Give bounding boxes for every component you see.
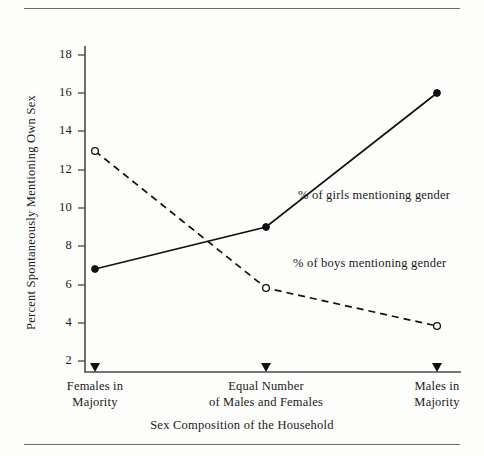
- y-tick-marks: [78, 55, 85, 361]
- series-girls: [92, 90, 441, 273]
- y-tick-label-12: 12: [46, 162, 72, 177]
- y-tick-label-4: 4: [46, 315, 72, 330]
- axis-lines: [85, 46, 461, 372]
- x-category-label-equal-number: Equal Number of Males and Females: [186, 378, 346, 410]
- figure: 18 16 14 12 10 8 6 4 2 Percent Spontaneo…: [0, 0, 484, 456]
- x-category-label-line2: of Males and Females: [186, 394, 346, 410]
- x-category-label-females-majority: Females in Majority: [35, 378, 155, 410]
- y-tick-label-6: 6: [46, 277, 72, 292]
- series-annotation-girls: % of girls mentioning gender: [298, 188, 450, 203]
- x-category-label-line1: Equal Number: [186, 378, 346, 394]
- y-tick-label-8: 8: [46, 238, 72, 253]
- category-markers: [90, 363, 442, 372]
- x-category-label-line2: Majority: [385, 394, 484, 410]
- x-category-label-line1: Males in: [385, 378, 484, 394]
- y-tick-label-2: 2: [46, 353, 72, 368]
- y-tick-label-14: 14: [46, 123, 72, 138]
- y-tick-label-10: 10: [46, 200, 72, 215]
- x-category-label-line2: Majority: [35, 394, 155, 410]
- y-axis-title: Percent Spontaneously Mentioning Own Sex: [24, 78, 39, 348]
- y-tick-label-18: 18: [46, 47, 72, 62]
- series-boys: [92, 148, 441, 330]
- x-axis-title: Sex Composition of the Household: [0, 418, 484, 433]
- x-category-label-males-majority: Males in Majority: [385, 378, 484, 410]
- y-tick-label-16: 16: [46, 85, 72, 100]
- series-annotation-boys: % of boys mentioning gender: [293, 256, 446, 271]
- x-category-label-line1: Females in: [35, 378, 155, 394]
